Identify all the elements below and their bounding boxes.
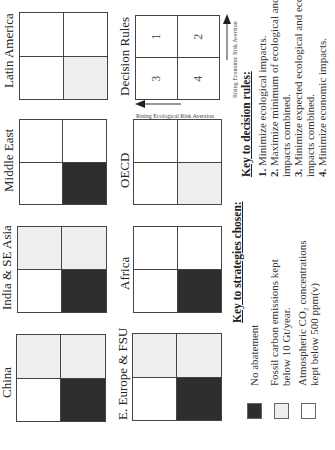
grid-cell xyxy=(178,270,222,313)
rule-text: Minimize expected ecological and economi… xyxy=(292,0,304,169)
grid-cell xyxy=(178,120,222,162)
grid-cell xyxy=(134,162,178,204)
panel-label: E. Europe & FSU xyxy=(116,328,130,420)
grid-cell xyxy=(18,270,62,313)
grid-cell xyxy=(61,335,105,378)
grid-cell xyxy=(133,334,177,377)
panel-label: India & SE Asia xyxy=(0,225,14,310)
strategy-grid xyxy=(132,333,222,421)
strategy-grid xyxy=(17,226,107,313)
decision-key-line: 2. Maximize minimum of ecological and ec… xyxy=(268,0,280,177)
rule-number: 1. xyxy=(256,169,268,177)
grid-cell xyxy=(63,120,106,162)
rule-text: impacts combined. xyxy=(304,94,316,177)
strategy-grid xyxy=(133,226,222,313)
swatch-fossil-emissions xyxy=(274,403,289,419)
rule-text: impacts combined. xyxy=(280,94,292,177)
rule-text: Minimize economic impacts. xyxy=(316,38,328,169)
panel-label: China xyxy=(0,367,14,398)
grid-cell xyxy=(134,270,178,313)
grid-cell xyxy=(177,377,221,420)
economic-axis-arrow-icon xyxy=(223,14,231,60)
strategy-grid xyxy=(19,12,108,100)
grid-cell xyxy=(20,120,63,162)
panel-label: Latin America xyxy=(2,13,16,88)
swatch-co2-concentration xyxy=(301,403,316,419)
grid-cell xyxy=(17,378,61,421)
grid-cell xyxy=(133,377,177,420)
grid-cell xyxy=(177,334,221,377)
decision-key-line: 1. Minimize ecological impacts. xyxy=(256,36,268,177)
grid-cell xyxy=(178,227,222,270)
strategy-grid xyxy=(19,119,107,205)
swatch-no-abatement xyxy=(247,403,262,419)
grid-cell xyxy=(134,120,178,162)
panel-label: Africa xyxy=(118,257,132,290)
grid-cell xyxy=(64,56,108,99)
strategy-key-title: Key to strategies chosen: xyxy=(231,201,243,323)
legend-text: Atmospheric CO₂ concentrations kept belo… xyxy=(296,226,320,386)
decision-rule-cell: 4 xyxy=(178,58,220,100)
rule-text: Maximize minimum of ecological and econo… xyxy=(268,0,280,169)
strategy-grid xyxy=(16,334,106,422)
rule-number: 2. xyxy=(268,169,280,177)
decision-rules-grid: 3 1 4 2 xyxy=(135,15,220,100)
decision-key-line: impacts combined. xyxy=(304,94,316,177)
panel-label: Decision Rules xyxy=(118,17,132,96)
decision-rule-cell: 2 xyxy=(178,16,220,58)
legend-text: Fossil carbon emissions kept below 10 Gt… xyxy=(268,246,292,386)
grid-cell xyxy=(178,162,222,204)
decision-rule-cell: 1 xyxy=(136,16,178,58)
grid-cell xyxy=(134,227,178,270)
ecological-axis-arrow-icon xyxy=(135,100,181,108)
rule-text: Minimize ecological impacts. xyxy=(256,36,268,169)
grid-cell xyxy=(17,335,61,378)
rule-number: 3. xyxy=(292,169,304,177)
economic-axis-label: Rising Economic Risk Aversion xyxy=(232,21,238,98)
legend-text: No abatement xyxy=(248,246,260,386)
grid-cell xyxy=(62,227,106,270)
grid-cell xyxy=(20,56,64,99)
grid-cell xyxy=(20,162,63,204)
grid-cell xyxy=(61,378,105,421)
decision-rule-cell: 3 xyxy=(136,58,178,100)
grid-cell xyxy=(64,13,108,56)
decision-key-line: 4. Minimize economic impacts. xyxy=(316,38,328,177)
grid-cell xyxy=(18,227,62,270)
panel-label: OECD xyxy=(118,153,132,188)
rule-number: 4. xyxy=(316,169,328,177)
grid-cell xyxy=(63,162,106,204)
figure-canvas: Latin America Middle East India & SE Asi… xyxy=(0,0,335,450)
decision-key-line: impacts combined. xyxy=(280,94,292,177)
panel-label: Middle East xyxy=(2,129,16,192)
grid-cell xyxy=(62,270,106,313)
strategy-grid xyxy=(133,119,222,205)
grid-cell xyxy=(20,13,64,56)
decision-key-title: Key to decision rules: xyxy=(240,71,252,177)
decision-key-line: 3. Minimize expected ecological and econ… xyxy=(292,0,304,177)
